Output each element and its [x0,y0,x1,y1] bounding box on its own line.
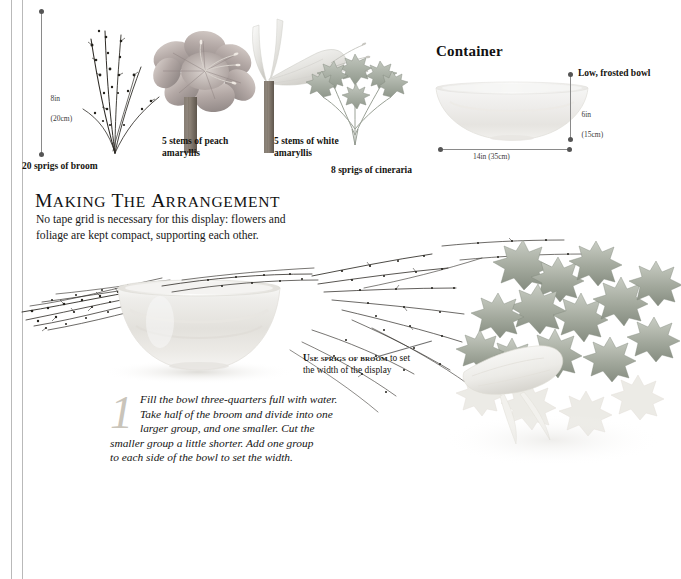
bowl-note-label: Low, frosted bowl [578,68,650,78]
callout-rest: to set [388,353,410,363]
step-line-1: Fill the bowl three-quarters full with w… [110,392,375,407]
intro-paragraph: No tape grid is necessary for this displ… [36,212,456,243]
callout-emphasis: Use sprigs of broom [303,353,388,363]
margin-rule-inner [22,0,23,579]
title-t: T [111,190,123,211]
bowl-height-cm: (15cm) [582,130,604,139]
caption-peach-line2: amaryllis [162,148,200,158]
caption-peach-line1: 5 stems of peach [162,136,228,146]
intro-line-1: No tape grid is necessary for this displ… [36,213,286,226]
title-a: A [151,190,165,211]
specimen-height-inches: 8in [51,94,61,103]
title-m: M [35,190,53,211]
step-line-3: larger group, and one smaller. Cut the [110,421,375,436]
title-he: HE [124,193,146,210]
container-heading: Container [436,43,503,60]
specimen-height-dimension-line [41,11,42,155]
specimen-row-artwork [55,5,475,170]
page-title: MAKING THE ARRANGEMENT [35,190,280,212]
intro-line-2: foliage are kept compact, supporting eac… [36,229,259,242]
bowl-height-dimension-line [570,74,571,140]
page-canvas: 8in (20cm) 20 sprigs of broom 5 stems of… [0,0,681,579]
title-aking: AKING [53,193,106,210]
bowl-width-dimension-line [440,149,570,150]
title-rrangement: RRANGEMENT [166,193,281,210]
callout-broom-width: Use sprigs of broom to set the width of … [303,352,410,376]
bowl-width-label: 14in (35cm) [473,152,510,162]
step-number: 1 [110,390,133,436]
step-line-4: smaller group a little shorter. Add one … [110,436,375,451]
caption-white-amaryllis: 5 stems of white amaryllis [274,136,339,159]
bowl-height-label: 6in (15cm) [574,100,603,150]
step-line-2: Take half of the broom and divide into o… [110,407,375,422]
step-line-5: to each side of the bowl to set the widt… [110,450,375,465]
step-1: 1 Fill the bowl three-quarters full with… [110,392,375,465]
margin-rule-outer [11,0,12,579]
caption-white-line2: amaryllis [274,148,312,158]
caption-peach-amaryllis: 5 stems of peach amaryllis [162,136,228,159]
caption-white-line1: 5 stems of white [274,136,339,146]
main-arrangement-artwork [12,230,681,530]
caption-broom: 20 sprigs of broom [22,161,98,173]
specimen-height-cm: (20cm) [51,114,73,123]
callout-line-2: the width of the display [303,365,392,375]
specimen-height-label: 8in (20cm) [43,84,72,134]
bowl-height-inches: 6in [582,110,592,119]
caption-cineraria: 8 sprigs of cineraria [331,165,412,177]
